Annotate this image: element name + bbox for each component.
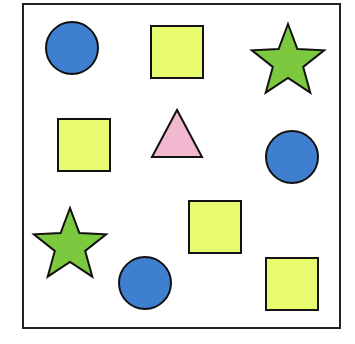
circle-bottom-center-icon (119, 257, 171, 309)
triangle-middle-center-icon (152, 110, 202, 157)
shapes-group (34, 22, 324, 310)
star-top-right-icon (252, 24, 324, 93)
square-bottom-right-icon (266, 258, 318, 310)
circle-middle-right-icon (266, 131, 318, 183)
shapes-diagram (0, 0, 355, 344)
circle-top-left-icon (46, 22, 98, 74)
star-bottom-left-icon (34, 208, 106, 277)
square-middle-left-icon (58, 119, 110, 171)
square-top-center-icon (151, 26, 203, 78)
square-bottom-center-icon (189, 201, 241, 253)
